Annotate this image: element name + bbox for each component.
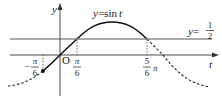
tick-neg-pi-6-den: 6	[33, 68, 38, 78]
point-pi-6	[75, 37, 78, 40]
curve-dashed-left	[8, 71, 43, 86]
hline-label-eq: =	[193, 25, 199, 37]
point-neg-pi-6-filled	[41, 69, 45, 73]
tick-5pi-6-num: 5	[145, 56, 150, 66]
curve-label-fn: sin	[104, 7, 117, 19]
hline-num: 1	[208, 20, 213, 30]
tick-pi-6-den: 6	[75, 68, 80, 78]
y-axis-label: y	[51, 3, 57, 15]
curve-label-var: t	[119, 7, 123, 19]
y-axis-arrow-icon	[58, 3, 63, 10]
hline-den: 2	[208, 31, 213, 41]
tick-neg-pi-6-sign: −	[24, 61, 29, 71]
curve-label: y=sint	[92, 7, 123, 19]
graph-canvas: y t O y=sint y= 1 2 − π 6 π 6 5 6 π	[0, 0, 222, 101]
t-axis-label: t	[209, 58, 213, 70]
sine-graph-figure: y t O y=sint y= 1 2 − π 6 π 6 5 6 π	[0, 0, 222, 101]
tick-pi-6-num: π	[75, 56, 80, 66]
tick-5pi-6-den: 6	[145, 68, 150, 78]
origin-label: O	[62, 54, 70, 66]
tick-neg-pi-6-num: π	[33, 56, 38, 66]
hline-label: y=	[187, 25, 199, 37]
point-5pi-6	[145, 37, 148, 40]
curve-solid	[43, 22, 147, 71]
t-axis-arrow-icon	[212, 53, 219, 58]
tick-5pi-6-pi: π	[153, 63, 158, 73]
